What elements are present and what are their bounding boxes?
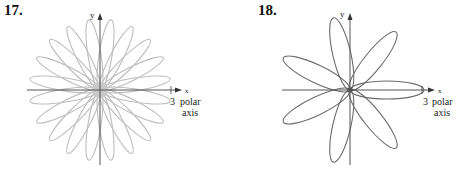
petal <box>94 89 118 161</box>
y-axis-label: y <box>90 10 95 20</box>
petal <box>29 84 101 108</box>
x-axis-label: x <box>438 87 442 95</box>
petal <box>99 72 171 96</box>
petal <box>325 88 359 164</box>
y-axis-arrow-icon <box>98 13 103 20</box>
y-axis-arrow-icon <box>348 13 353 20</box>
rose-curve-7-petals: y x 3 polar axis <box>230 0 460 171</box>
petal <box>325 16 359 92</box>
rose-curve-20-petals: y x 3 polar axis <box>0 0 230 171</box>
x-axis-arrow-icon <box>175 88 182 93</box>
axis-label: axis <box>182 107 198 118</box>
figure-17: 17. y x 3 polar axis <box>0 0 230 171</box>
petal <box>82 89 106 161</box>
petal <box>279 50 353 98</box>
x-axis-label: x <box>185 87 189 95</box>
petal <box>94 19 118 91</box>
figure-18: 18. y x 3 polar axis <box>230 0 460 171</box>
polar-label: polar <box>432 96 453 107</box>
petal <box>99 84 171 108</box>
petal <box>279 82 353 130</box>
x-axis-arrow-icon <box>428 88 435 93</box>
pole <box>348 88 353 93</box>
tick-label: 3 <box>423 96 428 107</box>
petal <box>29 72 101 96</box>
polar-label: polar <box>180 96 201 107</box>
tick-label: 3 <box>170 96 175 107</box>
petal <box>82 19 106 91</box>
y-axis-label: y <box>340 9 345 19</box>
axis-label: axis <box>434 107 450 118</box>
